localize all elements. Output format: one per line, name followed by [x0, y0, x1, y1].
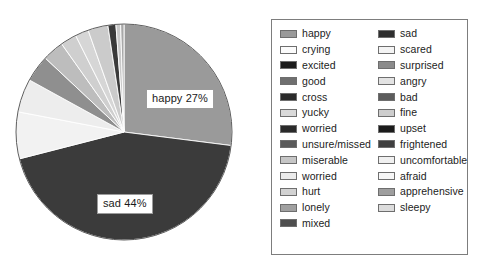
legend-item: sleepy	[378, 200, 468, 216]
legend-column-left: happycryingexcitedgoodcrossyuckyworriedu…	[280, 26, 368, 231]
legend-swatch-icon	[280, 219, 297, 227]
legend-swatch-icon	[378, 109, 395, 117]
legend-item: miserable	[280, 152, 368, 168]
legend-swatch-icon	[280, 93, 297, 101]
legend-swatch-icon	[280, 109, 297, 117]
legend-item-label: good	[302, 76, 326, 87]
legend-item-label: crying	[302, 44, 330, 55]
legend-item: worried	[280, 168, 368, 184]
legend-item: apprehensive	[378, 184, 468, 200]
legend-item-label: mixed	[302, 218, 330, 229]
legend-swatch-icon	[280, 61, 297, 69]
legend-swatch-icon	[378, 140, 395, 148]
legend-item: afraid	[378, 168, 468, 184]
legend-item-label: upset	[400, 123, 426, 134]
legend-item-label: sleepy	[400, 202, 431, 213]
legend-item-label: unsure/missed	[302, 139, 371, 150]
legend-item: mixed	[280, 216, 368, 232]
legend-item: excited	[280, 58, 368, 74]
legend-item: scared	[378, 42, 468, 58]
legend-swatch-icon	[280, 77, 297, 85]
legend-item: fine	[378, 105, 468, 121]
legend-item-label: sad	[400, 28, 417, 39]
legend-item-label: cross	[302, 92, 327, 103]
legend-item: good	[280, 73, 368, 89]
legend-item: uncomfortable	[378, 152, 468, 168]
pie-slice-happy	[124, 24, 232, 146]
legend-item: lonely	[280, 200, 368, 216]
legend-swatch-icon	[280, 140, 297, 148]
legend-swatch-icon	[378, 93, 395, 101]
pie-plot-area: happy 27% sad 44%	[0, 0, 262, 248]
legend-item-label: fine	[400, 107, 417, 118]
legend-item-label: frightened	[400, 139, 447, 150]
pie-data-label-happy: happy 27%	[146, 89, 214, 109]
legend-item-label: apprehensive	[400, 186, 464, 197]
legend-swatch-icon	[280, 188, 297, 196]
legend-swatch-icon	[378, 77, 395, 85]
legend-swatch-icon	[280, 30, 297, 38]
legend-item-label: surprised	[400, 60, 444, 71]
legend-item-label: bad	[400, 92, 418, 103]
legend-swatch-icon	[378, 61, 395, 69]
legend-swatch-icon	[378, 46, 395, 54]
legend-swatch-icon	[280, 204, 297, 212]
legend-item: yucky	[280, 105, 368, 121]
pie-data-label-sad: sad 44%	[97, 194, 153, 214]
legend-item: worried	[280, 121, 368, 137]
legend-item: sad	[378, 26, 468, 42]
legend-item: cross	[280, 89, 368, 105]
legend-swatch-icon	[378, 188, 395, 196]
legend-swatch-icon	[280, 172, 297, 180]
legend-item-label: excited	[302, 60, 336, 71]
legend-item: unsure/missed	[280, 137, 368, 153]
legend-item-label: hurt	[302, 186, 320, 197]
legend-item: happy	[280, 26, 368, 42]
legend-item: hurt	[280, 184, 368, 200]
legend-item-label: worried	[302, 171, 337, 182]
legend-item: bad	[378, 89, 468, 105]
legend-swatch-icon	[378, 125, 395, 133]
legend-swatch-icon	[280, 46, 297, 54]
legend-item-label: uncomfortable	[400, 155, 467, 166]
legend-swatch-icon	[280, 125, 297, 133]
legend-swatch-icon	[378, 172, 395, 180]
legend-column-right: sadscaredsurprisedangrybadfineupsetfrigh…	[378, 26, 468, 231]
legend-item: surprised	[378, 58, 468, 74]
legend-item-label: yucky	[302, 107, 329, 118]
legend-item: angry	[378, 73, 468, 89]
legend-swatch-icon	[378, 204, 395, 212]
legend-swatch-icon	[378, 30, 395, 38]
chart-legend: happycryingexcitedgoodcrossyuckyworriedu…	[271, 19, 468, 255]
legend-columns: happycryingexcitedgoodcrossyuckyworriedu…	[280, 26, 468, 231]
legend-item-label: afraid	[400, 171, 427, 182]
legend-item: frightened	[378, 137, 468, 153]
legend-item: crying	[280, 42, 368, 58]
legend-item-label: angry	[400, 76, 427, 87]
legend-item-label: lonely	[302, 202, 330, 213]
legend-item-label: worried	[302, 123, 337, 134]
legend-swatch-icon	[378, 156, 395, 164]
legend-item-label: happy	[302, 28, 331, 39]
legend-item-label: miserable	[302, 155, 348, 166]
legend-item: upset	[378, 121, 468, 137]
legend-item-label: scared	[400, 44, 432, 55]
legend-swatch-icon	[280, 156, 297, 164]
